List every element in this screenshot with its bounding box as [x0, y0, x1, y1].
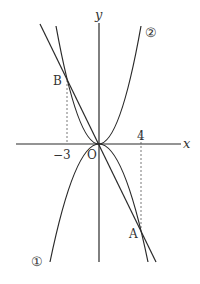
point-a-label: A [128, 227, 138, 241]
origin-label: O [87, 148, 97, 162]
x-axis-label: x [183, 136, 191, 151]
tick-label-4: 4 [137, 129, 145, 143]
parabola-2-label: ② [145, 25, 157, 40]
tick-label-neg3: −3 [53, 148, 71, 162]
coordinate-diagram: y x O −3 4 B A ② ① [0, 0, 200, 284]
y-axis-label: y [94, 7, 103, 22]
line-ab [40, 24, 156, 262]
point-b-label: B [53, 74, 62, 88]
parabola-1-label: ① [31, 254, 43, 269]
